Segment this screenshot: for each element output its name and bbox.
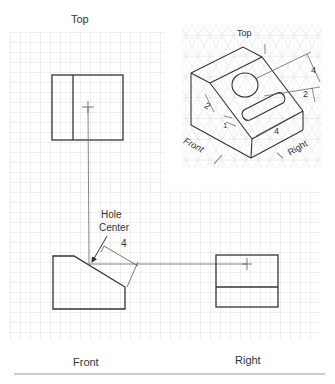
iso-dim-4-right: 4	[311, 65, 316, 75]
grid-top-left	[10, 32, 165, 192]
front-dimension-label: 4	[121, 238, 127, 249]
hole-center-label-line2: Center	[99, 222, 129, 233]
hole-center-label-line1: Hole	[101, 209, 122, 220]
iso-dim-1: 1	[223, 121, 227, 130]
top-view-label: Top	[71, 13, 89, 25]
orthographic-projection-figure: Top Front Right Hole Center 4 Top Front …	[0, 0, 335, 384]
right-view-label: Right	[235, 354, 261, 366]
front-view-label: Front	[73, 356, 99, 368]
iso-top-label: Top	[237, 28, 252, 38]
iso-dim-4-bottom: 4	[274, 126, 279, 136]
iso-dim-2-right: 2	[303, 89, 308, 99]
